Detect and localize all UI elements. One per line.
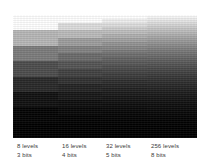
levels-label: 32 levels <box>106 142 147 151</box>
caption-16-levels: 16 levels 4 bits <box>58 142 102 159</box>
panel-256-levels <box>147 15 197 138</box>
gray-band <box>58 123 102 131</box>
gradient-plate <box>13 15 197 138</box>
gray-band <box>58 69 102 77</box>
band-stack-32 <box>102 15 147 138</box>
gray-band <box>58 92 102 100</box>
gray-band <box>13 61 58 76</box>
gray-band <box>58 77 102 85</box>
smooth-ramp-256 <box>147 15 197 138</box>
band-stack-8 <box>13 15 58 138</box>
gray-band <box>58 115 102 123</box>
levels-label: 16 levels <box>62 142 102 151</box>
gray-band <box>58 53 102 61</box>
bits-label: 8 bits <box>151 151 197 160</box>
levels-label: 256 levels <box>151 142 197 151</box>
gray-band <box>58 15 102 23</box>
band-stack-16 <box>58 15 102 138</box>
gray-band <box>58 130 102 138</box>
gray-band <box>13 92 58 107</box>
gray-band <box>13 77 58 92</box>
caption-8-levels: 8 levels 3 bits <box>13 142 58 159</box>
gray-band <box>13 46 58 61</box>
gray-band <box>58 23 102 31</box>
gray-band <box>58 30 102 38</box>
gray-band <box>13 123 58 138</box>
gray-band <box>58 107 102 115</box>
quantization-figure: 8 levels 3 bits 16 levels 4 bits 32 leve… <box>0 0 204 167</box>
gray-band <box>58 46 102 54</box>
gray-band <box>58 100 102 108</box>
panel-32-levels <box>102 15 147 138</box>
bits-label: 4 bits <box>62 151 102 160</box>
gray-band <box>13 30 58 45</box>
gray-band <box>13 107 58 122</box>
caption-256-levels: 256 levels 8 bits <box>147 142 197 159</box>
panel-16-levels <box>58 15 102 138</box>
gray-band <box>13 15 58 30</box>
gray-band <box>58 38 102 46</box>
bits-label: 3 bits <box>17 151 58 160</box>
panel-8-levels <box>13 15 58 138</box>
bits-label: 5 bits <box>106 151 147 160</box>
gray-band <box>58 84 102 92</box>
gray-band <box>58 61 102 69</box>
caption-row: 8 levels 3 bits 16 levels 4 bits 32 leve… <box>13 142 197 159</box>
levels-label: 8 levels <box>17 142 58 151</box>
gray-band <box>102 134 147 138</box>
caption-32-levels: 32 levels 5 bits <box>102 142 147 159</box>
